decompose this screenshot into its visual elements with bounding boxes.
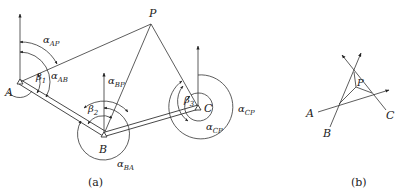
figure-b [318, 53, 389, 127]
station-B-marker [101, 132, 107, 137]
b-label-C: C [386, 109, 395, 122]
ray-B [330, 53, 361, 127]
angle-label-alpha-BA: αBA [117, 158, 134, 172]
p-line-1 [354, 72, 356, 87]
resection-diagram: P A B C αAP αAB β1 αBP β2 αBA β3 αCP αCP… [0, 0, 407, 196]
labels-b: A B C P (b) [305, 77, 395, 189]
angle-label-alpha-AB: αAB [51, 70, 68, 84]
point-label-A: A [4, 86, 13, 99]
line-C-P [151, 24, 198, 107]
b-label-A: A [305, 107, 314, 120]
arc-alpha-AB [20, 52, 50, 97]
b-label-B: B [322, 127, 331, 140]
b-label-P: P [356, 77, 364, 88]
angle-label-beta-1: β1 [35, 71, 46, 85]
angle-label-beta-2: β2 [87, 103, 99, 117]
point-label-P: P [148, 7, 157, 20]
angle-label-alpha-AP: αAP [43, 34, 60, 48]
caption-a: (a) [88, 176, 103, 189]
point-label-B: B [98, 143, 107, 156]
p-line-2 [339, 87, 356, 104]
caption-b: (b) [351, 176, 367, 189]
point-label-C: C [204, 102, 213, 115]
angle-label-alpha-CP-inner: αCP [206, 121, 223, 135]
arc-C-inner-top [191, 93, 198, 95]
angle-label-alpha-CP-outer: αCP [238, 103, 255, 117]
angle-label-alpha-BP: αBP [108, 75, 125, 89]
